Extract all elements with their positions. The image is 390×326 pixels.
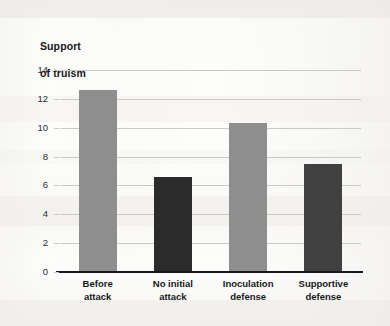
y-axis-tick-label: 10 xyxy=(24,123,48,133)
x-axis-label: Supportivedefense xyxy=(275,278,371,303)
y-axis-tick xyxy=(54,243,59,244)
y-axis-tick xyxy=(54,272,59,273)
x-axis-label-line-2: defense xyxy=(230,291,266,302)
y-axis-tick xyxy=(54,70,59,71)
bar[interactable] xyxy=(229,123,267,272)
y-axis-tick-label: 2 xyxy=(24,238,48,248)
plot-area xyxy=(60,70,361,272)
y-axis-tick xyxy=(54,185,59,186)
chart-page: Support of truism 02468101214Beforeattac… xyxy=(0,0,390,326)
chart-title-line-1: Support xyxy=(40,40,81,52)
y-axis-tick xyxy=(54,99,59,100)
x-axis-label-line-2: attack xyxy=(84,291,111,302)
scan-texture-band xyxy=(0,0,390,18)
y-axis-tick-label: 14 xyxy=(24,65,48,75)
gridline xyxy=(60,70,361,71)
y-axis-tick xyxy=(54,214,59,215)
y-axis-tick xyxy=(54,128,59,129)
y-axis-tick-label: 6 xyxy=(24,180,48,190)
bar[interactable] xyxy=(79,90,117,272)
x-axis-line xyxy=(56,271,363,273)
x-axis-label-line-1: Inoculation xyxy=(223,278,274,289)
x-axis-label-line-2: attack xyxy=(159,291,186,302)
y-axis-tick-label: 0 xyxy=(24,267,48,277)
y-axis-tick xyxy=(54,157,59,158)
scan-texture-band xyxy=(0,300,390,326)
x-axis-label-line-1: Before xyxy=(83,278,113,289)
bar[interactable] xyxy=(304,164,342,272)
bar[interactable] xyxy=(154,177,192,272)
x-axis-label-line-1: Supportive xyxy=(299,278,349,289)
x-axis-label-line-2: defense xyxy=(305,291,341,302)
y-axis-tick-label: 4 xyxy=(24,209,48,219)
y-axis-tick-label: 8 xyxy=(24,152,48,162)
x-axis-label-line-1: No initial xyxy=(153,278,193,289)
y-axis-tick-label: 12 xyxy=(24,94,48,104)
